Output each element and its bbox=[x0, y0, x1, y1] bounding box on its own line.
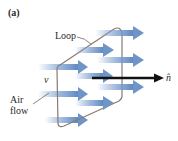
normal-label: n̂ bbox=[166, 72, 171, 83]
panel-label: (a) bbox=[8, 7, 20, 18]
flow-arrow-icon bbox=[38, 87, 88, 101]
flux-diagram bbox=[0, 0, 178, 141]
loop-label: Loop bbox=[55, 30, 76, 41]
loop-leader-line bbox=[77, 37, 91, 44]
flow-arrows-back bbox=[38, 60, 88, 127]
velocity-label: v⃗ bbox=[44, 74, 56, 85]
airflow-label-line1: Air bbox=[10, 94, 23, 105]
airflow-label-line2: flow bbox=[10, 105, 28, 116]
flow-arrow-icon bbox=[38, 60, 88, 74]
flow-arrow-icon bbox=[75, 43, 114, 57]
